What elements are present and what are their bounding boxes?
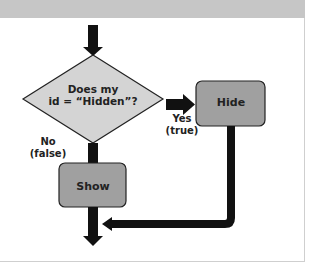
yes-arrow [166, 94, 195, 115]
no-label: No (false) [28, 136, 68, 160]
decision-line-1: Does my [43, 83, 143, 95]
exit-arrow [83, 207, 103, 246]
yes-line-1: Yes [162, 113, 202, 125]
decision-line-2: id = “Hidden”? [43, 95, 143, 107]
yes-label: Yes (true) [162, 113, 202, 137]
no-line-2: (false) [28, 148, 68, 160]
flowchart-canvas [0, 0, 319, 268]
hide-label: Hide [196, 97, 266, 109]
yes-line-2: (true) [162, 125, 202, 137]
entry-arrow [83, 25, 103, 56]
no-connector [88, 143, 98, 163]
no-line-1: No [28, 136, 68, 148]
show-label: Show [60, 181, 126, 193]
decision-label: Does my id = “Hidden”? [43, 83, 143, 107]
